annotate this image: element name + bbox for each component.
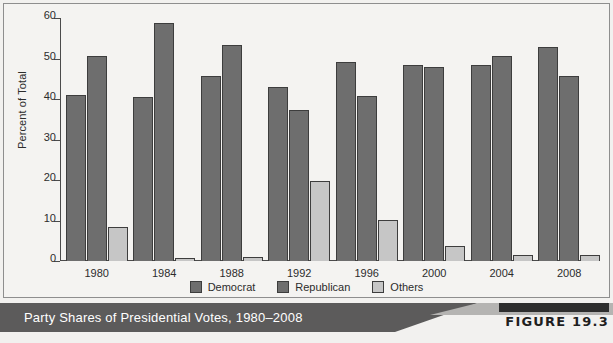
bar-democrat-2008 [538,47,558,261]
bar-others-2000 [445,246,465,261]
legend-label-oth: Others [390,281,423,293]
bar-republican-2008 [559,76,579,261]
y-tick-label: 30 [44,132,56,143]
bar-group [268,18,330,261]
y-tick-label: 60 [44,10,56,21]
y-tick-label: 40 [44,91,56,102]
bar-others-2008 [580,255,600,261]
bar-democrat-1996 [336,62,356,261]
figure-19-3: Percent of Total 0102030405060 198019841… [0,0,613,343]
bar-group [133,18,195,261]
bar-democrat-1980 [66,95,86,261]
bar-others-1992 [310,181,330,261]
bar-republican-1984 [154,23,174,261]
bar-group [471,18,533,261]
bar-group [201,18,263,261]
legend-swatch-rep [277,281,289,293]
legend-swatch-dem [190,281,202,293]
y-axis-line [60,18,61,261]
bar-group [66,18,128,261]
bar-democrat-1988 [201,76,221,261]
bar-republican-2000 [424,67,444,261]
bar-others-2004 [513,255,533,261]
bar-democrat-2000 [403,65,423,261]
plot-area: 0102030405060 19801984198819921996200020… [60,18,600,261]
bar-group [336,18,398,261]
bar-others-1996 [378,220,398,261]
legend-label-dem: Democrat [208,281,256,293]
bar-others-1984 [175,258,195,261]
bar-others-1980 [108,227,128,261]
figure-tag-label: FIGURE 19.3 [491,314,609,329]
bar-republican-1992 [289,110,309,261]
bar-group [538,18,600,261]
bar-democrat-1984 [133,97,153,261]
legend-item-rep: Republican [277,281,350,293]
y-tick-label: 20 [44,172,56,183]
bar-republican-1980 [87,56,107,261]
y-tick-label: 0 [50,253,56,264]
figure-tag: FIGURE 19.3 [491,303,609,329]
bar-republican-2004 [492,56,512,261]
bar-democrat-2004 [471,65,491,261]
caption-text: Party Shares of Presidential Votes, 1980… [24,303,303,332]
x-tick-label: 2008 [529,267,609,279]
bar-group [403,18,465,261]
bar-others-1988 [243,257,263,261]
legend-swatch-oth [372,281,384,293]
chart-legend: DemocratRepublicanOthers [4,281,609,293]
bar-republican-1988 [222,45,242,261]
figure-tag-rule [499,303,609,312]
y-tick-label: 50 [44,51,56,62]
y-axis-title-text: Percent of Total [16,50,28,170]
legend-item-oth: Others [372,281,423,293]
bar-democrat-1992 [268,87,288,261]
legend-item-dem: Democrat [190,281,256,293]
legend-label-rep: Republican [295,281,350,293]
bar-republican-1996 [357,96,377,261]
chart-panel: Percent of Total 0102030405060 198019841… [3,3,610,298]
y-tick-label: 10 [44,213,56,224]
